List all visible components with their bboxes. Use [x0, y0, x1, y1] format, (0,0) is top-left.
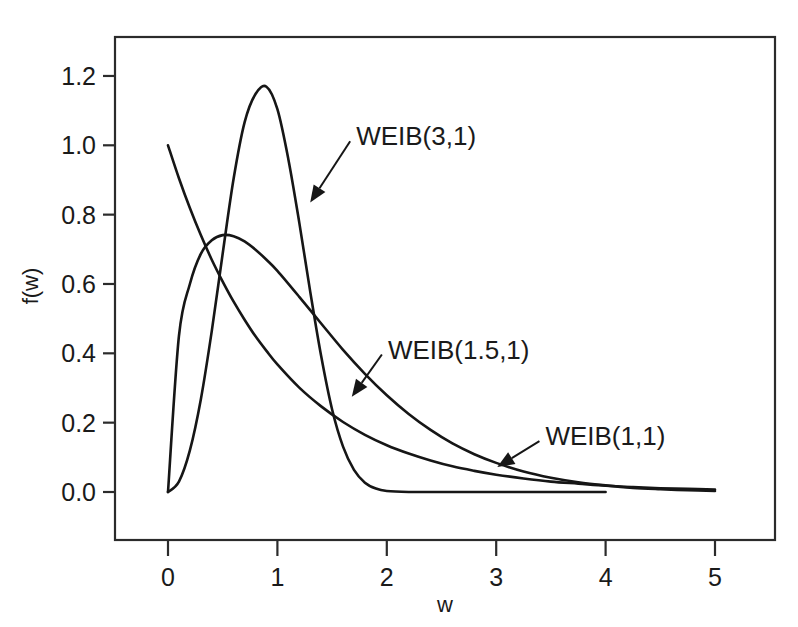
- x-tick-label: 2: [380, 563, 394, 591]
- y-tick-label: 0.0: [61, 478, 96, 506]
- weibull-density-figure: 0.00.20.40.60.81.01.2 012345 f(w) w WEIB…: [0, 0, 798, 627]
- x-tick-label: 0: [161, 563, 175, 591]
- annotation-arrowhead: [497, 452, 515, 467]
- annotation-leader: [512, 441, 540, 458]
- y-tick-label: 0.2: [61, 409, 96, 437]
- x-axis-title: w: [436, 592, 453, 617]
- annotation-arrowhead: [310, 184, 325, 202]
- x-axis-ticks: 012345: [161, 540, 722, 591]
- y-tick-label: 1.0: [61, 131, 96, 159]
- y-tick-label: 0.8: [61, 201, 96, 229]
- annotation-leader: [320, 141, 351, 188]
- annotation-label: WEIB(1,1): [545, 421, 665, 451]
- annotation-arrowhead: [352, 379, 368, 397]
- series-annotations: WEIB(3,1)WEIB(1.5,1)WEIB(1,1): [310, 121, 665, 467]
- annotation-leader: [362, 355, 382, 383]
- annotation-label: WEIB(1.5,1): [388, 335, 530, 365]
- x-tick-label: 3: [489, 563, 503, 591]
- y-axis-title: f(w): [18, 268, 43, 305]
- annotation-label: WEIB(3,1): [356, 121, 476, 151]
- y-tick-label: 0.6: [61, 270, 96, 298]
- y-tick-label: 1.2: [61, 62, 96, 90]
- y-tick-label: 0.4: [61, 339, 96, 367]
- x-tick-label: 1: [270, 563, 284, 591]
- y-axis-ticks: 0.00.20.40.60.81.01.2: [61, 62, 115, 506]
- x-tick-label: 5: [708, 563, 722, 591]
- x-tick-label: 4: [599, 563, 613, 591]
- chart-canvas: 0.00.20.40.60.81.01.2 012345 f(w) w WEIB…: [0, 0, 798, 627]
